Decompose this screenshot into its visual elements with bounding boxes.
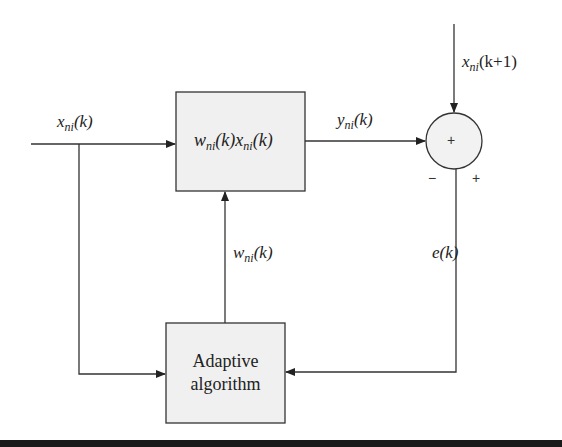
weight-sub: ni	[244, 251, 253, 265]
summer-plus-sign: +	[472, 170, 480, 186]
input-signal-label: xni(k)	[57, 112, 93, 132]
input-sub: ni	[65, 120, 74, 134]
desired-var: x	[462, 52, 470, 71]
mult-var1: w	[194, 130, 206, 150]
adaptive-line1: Adaptive	[166, 350, 285, 373]
summer-center-sign: +	[447, 132, 455, 148]
output-sub: ni	[345, 118, 354, 132]
adaptive-algorithm-label: Adaptive algorithm	[166, 350, 285, 396]
mult-arg2: (k)	[253, 130, 273, 150]
error-arg: (k)	[440, 243, 459, 262]
weight-var: w	[233, 243, 244, 262]
input-arg: (k)	[74, 112, 93, 131]
weight-arg: (k)	[254, 243, 273, 262]
bottom-rule	[0, 440, 562, 447]
mult-sub2: ni	[243, 139, 252, 153]
input-var: x	[57, 112, 65, 131]
error-var: e	[432, 243, 440, 262]
output-arg: (k)	[354, 110, 373, 129]
multiplier-label: wni(k)xni(k)	[194, 130, 273, 151]
error-signal-label: e(k)	[432, 243, 458, 263]
desired-sub: ni	[470, 60, 479, 74]
error-line	[286, 169, 456, 372]
output-var: y	[337, 110, 345, 129]
adaptive-line2: algorithm	[166, 373, 285, 396]
desired-signal-label: xni(k+1)	[462, 52, 517, 72]
weight-signal-label: wni(k)	[233, 243, 273, 263]
desired-arg: (k+1)	[479, 52, 517, 71]
summer-minus-sign: −	[428, 170, 436, 186]
mult-sub1: ni	[206, 139, 215, 153]
mult-arg1: (k)	[215, 130, 235, 150]
output-signal-label: yni(k)	[337, 110, 373, 130]
input-branch-line	[79, 144, 165, 374]
